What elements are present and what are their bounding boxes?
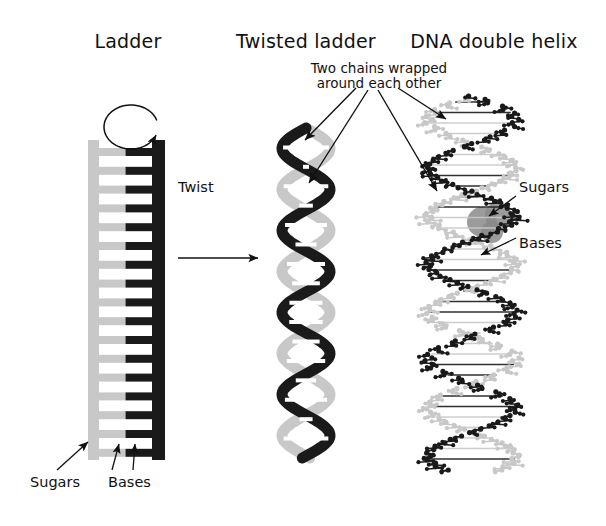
model-bond <box>419 223 435 224</box>
ladder-base-left <box>97 449 126 457</box>
model-bond <box>485 380 495 381</box>
model-bond <box>432 227 433 228</box>
model-bond <box>478 142 489 143</box>
ladder-base-left <box>97 242 126 250</box>
model-bond <box>430 349 435 350</box>
model-bond <box>520 414 523 415</box>
model-bond <box>433 455 434 456</box>
model-bond <box>433 169 435 170</box>
model-bond <box>522 312 526 313</box>
model-bond <box>439 444 453 445</box>
model-bond <box>442 353 447 354</box>
model-bond <box>512 220 528 221</box>
model-bond <box>507 410 510 411</box>
model-bond <box>483 441 497 442</box>
twisted-ladder-diagram <box>282 128 330 458</box>
model-bond <box>477 438 478 439</box>
model-bond <box>422 308 425 309</box>
ladder-base-right <box>126 317 155 325</box>
diagram-graphics <box>0 0 606 526</box>
model-bond <box>446 346 456 347</box>
ladder-base-right <box>126 374 155 382</box>
model-bond <box>469 196 484 197</box>
model-bond <box>429 115 439 116</box>
model-bond <box>515 353 520 354</box>
ladder-bases-pointer-arrow-2 <box>133 444 135 470</box>
model-bond <box>422 370 427 371</box>
ladder-base-right <box>126 167 155 175</box>
ladder-base-right <box>126 280 155 288</box>
model-bond <box>441 104 446 105</box>
model-bond <box>441 424 454 425</box>
model-bond <box>495 111 500 112</box>
ladder-rail-right-sugar-backbone <box>152 140 165 460</box>
ladder-base-left <box>97 355 126 363</box>
ladder-base-left <box>97 317 126 325</box>
ladder-base-left <box>97 298 126 306</box>
model-bond <box>451 200 466 201</box>
model-bond <box>511 373 516 374</box>
model-bond <box>495 135 506 136</box>
rotation-arrow-icon <box>104 105 157 149</box>
model-bond <box>481 152 484 153</box>
model-bond <box>427 468 442 469</box>
model-bond <box>418 461 433 462</box>
model-bond <box>499 325 510 326</box>
model-bond <box>497 448 511 449</box>
ladder-base-right <box>126 186 155 194</box>
model-bond <box>479 342 489 343</box>
model-bond <box>428 322 439 323</box>
model-bond <box>447 427 460 428</box>
ladder-base-right <box>126 411 155 419</box>
model-bond <box>493 424 506 425</box>
model-bond <box>498 370 503 371</box>
ladder-base-left <box>97 280 126 288</box>
model-bond <box>446 186 447 187</box>
model-bond <box>426 111 431 112</box>
model-bond <box>507 451 508 452</box>
model-bond <box>491 397 495 398</box>
model-bond <box>507 465 522 466</box>
model-bond <box>435 414 438 415</box>
model-bond <box>490 234 491 235</box>
model-bond <box>494 332 499 333</box>
model-bond <box>432 278 446 279</box>
model-bond <box>488 189 489 190</box>
ladder-base-right <box>126 336 155 344</box>
model-bond <box>482 427 495 428</box>
ladder-base-right <box>126 261 155 269</box>
model-bond <box>421 363 431 364</box>
ladder-base-left <box>97 392 126 400</box>
model-bond <box>464 189 465 190</box>
model-bond <box>473 431 475 432</box>
model-bond <box>459 383 470 384</box>
two-chains-pointer-arrow-4 <box>378 90 437 191</box>
ladder-base-right <box>126 223 155 231</box>
ladder-base-left <box>97 186 126 194</box>
model-bond <box>431 400 442 401</box>
ladder-diagram <box>88 105 165 460</box>
ladder-base-left <box>97 336 126 344</box>
model-bond <box>426 261 441 262</box>
model-bond <box>488 186 489 187</box>
model-bond <box>518 128 523 129</box>
model-bond <box>432 421 444 422</box>
model-bond <box>501 356 506 357</box>
model-bond <box>511 366 521 367</box>
model-bond <box>475 434 477 435</box>
model-bond <box>447 237 463 238</box>
model-bond <box>504 461 519 462</box>
model-bond <box>427 132 431 133</box>
ladder-base-left <box>97 167 126 175</box>
model-bond <box>434 183 448 184</box>
model-bond <box>437 329 441 330</box>
model-bond <box>446 373 451 374</box>
model-bond <box>479 104 484 105</box>
two-chains-pointer-arrow-3 <box>398 88 446 119</box>
ladder-base-left <box>97 261 126 269</box>
model-bond <box>521 169 523 170</box>
model-bond <box>504 125 509 126</box>
model-bond <box>422 172 424 173</box>
model-bond <box>478 285 491 286</box>
model-bond <box>446 234 447 235</box>
